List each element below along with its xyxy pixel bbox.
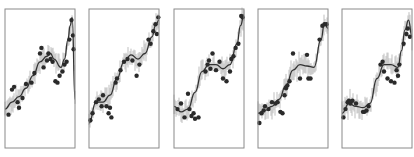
- multi-panel-scatter-figure: [0, 0, 414, 157]
- panel-1: [5, 9, 76, 148]
- panel-2: [88, 9, 160, 148]
- figure: [0, 0, 414, 157]
- data-points: [6, 18, 76, 117]
- data-points: [88, 15, 160, 122]
- panel-frame: [5, 9, 75, 148]
- fit-line: [89, 20, 159, 123]
- panel-frame: [174, 9, 244, 148]
- panel-4: [257, 9, 329, 148]
- noise-band: [89, 13, 159, 127]
- panel-5: [341, 9, 412, 148]
- panel-frame: [89, 9, 159, 148]
- panel-3: [174, 8, 245, 148]
